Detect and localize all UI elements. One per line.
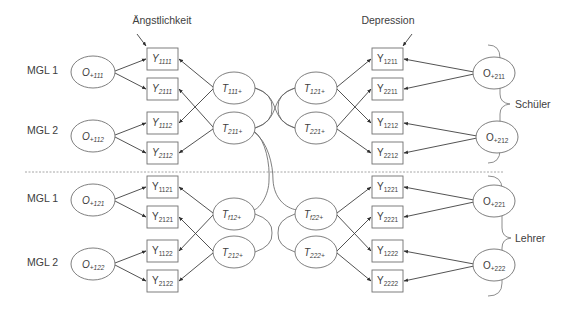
row-label-mgl2-upper: MGL 2 bbox=[27, 124, 58, 136]
row-label-mgl1-upper: MGL 1 bbox=[27, 64, 58, 76]
trait-factor: T222+ bbox=[295, 236, 337, 268]
edges-method-left bbox=[115, 59, 146, 281]
trait-factor: Tf12+ bbox=[213, 198, 255, 230]
indicator-box: Y1111 bbox=[147, 48, 178, 70]
indicator-box: Y1212 bbox=[372, 112, 403, 134]
trait-factor: T212+ bbox=[213, 236, 255, 268]
indicator-box: Y1112 bbox=[147, 112, 178, 134]
method-factor: O+121 bbox=[71, 184, 115, 216]
indicator-box: Y1222 bbox=[372, 240, 403, 262]
construct-heading-depression: Depression bbox=[361, 14, 414, 26]
row-label-mgl2-lower: MGL 2 bbox=[27, 256, 58, 268]
group-label-lehrer: Lehrer bbox=[515, 232, 546, 244]
path-diagram: Ängstlichkeit Depression MGL 1 MGL 2 MGL… bbox=[0, 0, 568, 311]
method-factor: O+221 bbox=[473, 185, 515, 217]
method-factor: O+112 bbox=[71, 120, 115, 152]
indicator-box: Y2111 bbox=[147, 78, 178, 100]
indicators-right: Y1211 Y2211 Y1212 Y2212 Y1221 Y2221 Y122… bbox=[372, 48, 403, 292]
indicator-box: Y2121 bbox=[147, 206, 178, 228]
indicator-box: Y2112 bbox=[147, 142, 178, 164]
indicator-box: Y2211 bbox=[372, 78, 403, 100]
indicators-left: Y1111 Y2111 Y1112 Y2112 Y1121 Y2121 Y112… bbox=[147, 48, 178, 292]
indicator-box: Y2221 bbox=[372, 206, 403, 228]
trait-factor: T121+ bbox=[295, 72, 337, 104]
row-label-mgl1-lower: MGL 1 bbox=[27, 192, 58, 204]
trait-correlations bbox=[254, 88, 297, 252]
construct-heading-anxiety: Ängstlichkeit bbox=[133, 14, 192, 26]
trait-factors-right: T121+ T221+ Tf22+ T222+ bbox=[295, 72, 337, 268]
indicator-box: Y1211 bbox=[372, 48, 403, 70]
method-factor: O+211 bbox=[473, 57, 515, 89]
edges-method-right bbox=[404, 59, 477, 281]
indicator-box: Y2122 bbox=[147, 270, 178, 292]
method-factor: O+111 bbox=[71, 56, 115, 88]
residual-arrow-left bbox=[137, 34, 146, 46]
trait-factor: T211+ bbox=[213, 112, 255, 144]
method-factor: O+222 bbox=[473, 249, 515, 281]
edges-trait-left bbox=[179, 59, 213, 281]
indicator-box: Y2212 bbox=[372, 142, 403, 164]
indicator-box: Y1122 bbox=[147, 240, 178, 262]
indicator-box: Y2222 bbox=[372, 270, 403, 292]
method-factor: O+212 bbox=[476, 121, 518, 153]
indicator-box: Y1121 bbox=[147, 176, 178, 198]
trait-factor: T221+ bbox=[295, 112, 337, 144]
edges-trait-right bbox=[337, 59, 371, 281]
residual-arrow-right bbox=[403, 34, 412, 46]
trait-factor: T111+ bbox=[213, 72, 255, 104]
trait-factor: Tf22+ bbox=[295, 198, 337, 230]
trait-factors-left: T111+ T211+ Tf12+ T212+ bbox=[213, 72, 255, 268]
method-factors-right: O+211 O+212 O+221 O+222 bbox=[473, 57, 518, 281]
group-label-schueler: Schüler bbox=[515, 98, 551, 110]
method-factor: O+122 bbox=[71, 248, 115, 280]
indicator-box: Y1221 bbox=[372, 176, 403, 198]
method-factors-left: O+111 O+112 O+121 O+122 bbox=[71, 56, 115, 280]
